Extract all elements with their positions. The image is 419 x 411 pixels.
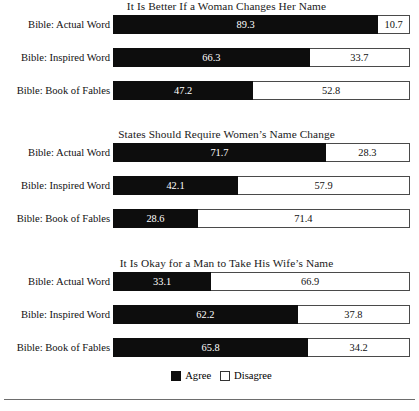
row-label: Bible: Inspired Word — [0, 48, 113, 67]
legend-label-agree: Agree — [185, 370, 211, 381]
bar-row: Bible: Inspired Word 42.1 57.9 — [0, 176, 419, 195]
bar-segment-disagree[interactable]: 66.9 — [211, 272, 410, 291]
bar-track: 89.3 10.7 — [113, 15, 410, 34]
bar-segment-agree[interactable]: 33.1 — [113, 272, 211, 291]
bar-track: 33.1 66.9 — [113, 272, 410, 291]
bar-segment-agree[interactable]: 28.6 — [113, 209, 198, 228]
bar-track: 47.2 52.8 — [113, 81, 410, 100]
bar-segment-agree[interactable]: 71.7 — [113, 143, 326, 162]
bar-segment-disagree[interactable]: 33.7 — [310, 48, 410, 67]
panel-rows: Bible: Actual Word 71.7 28.3 Bible: Insp… — [0, 143, 419, 228]
bar-segment-agree[interactable]: 62.2 — [113, 305, 298, 324]
bottom-divider — [4, 399, 415, 400]
legend-label-disagree: Disagree — [234, 370, 272, 381]
chart-panel-3: It Is Okay for a Man to Take His Wife’s … — [0, 257, 419, 357]
bar-segment-agree[interactable]: 66.3 — [113, 48, 310, 67]
stacked-bar-figure: It Is Better If a Woman Changes Her Name… — [0, 0, 419, 411]
row-label: Bible: Actual Word — [0, 272, 113, 291]
bar-row: Bible: Actual Word 71.7 28.3 — [0, 143, 419, 162]
legend-swatch-agree-icon — [171, 371, 181, 381]
bar-track: 65.8 34.2 — [113, 338, 410, 357]
panel-rows: Bible: Actual Word 89.3 10.7 Bible: Insp… — [0, 15, 419, 100]
bar-segment-agree[interactable]: 47.2 — [113, 81, 253, 100]
legend-item-agree[interactable]: Agree — [171, 370, 211, 381]
bar-row: Bible: Actual Word 89.3 10.7 — [0, 15, 419, 34]
legend-swatch-disagree-icon — [220, 371, 230, 381]
panel-title: States Should Require Women’s Name Chang… — [0, 128, 419, 141]
row-label: Bible: Book of Fables — [0, 81, 113, 100]
chart-panel-2: States Should Require Women’s Name Chang… — [0, 128, 419, 228]
bar-track: 42.1 57.9 — [113, 176, 410, 195]
bar-segment-disagree[interactable]: 37.8 — [298, 305, 410, 324]
bar-segment-agree[interactable]: 65.8 — [113, 338, 308, 357]
panel-rows: Bible: Actual Word 33.1 66.9 Bible: Insp… — [0, 272, 419, 357]
panel-title: It Is Better If a Woman Changes Her Name — [0, 0, 419, 13]
bar-segment-disagree[interactable]: 10.7 — [378, 15, 410, 34]
bar-track: 62.2 37.8 — [113, 305, 410, 324]
row-label: Bible: Actual Word — [0, 143, 113, 162]
chart-legend: Agree Disagree — [0, 370, 419, 381]
row-label: Bible: Inspired Word — [0, 176, 113, 195]
panel-title: It Is Okay for a Man to Take His Wife’s … — [0, 257, 419, 270]
bar-row: Bible: Book of Fables 47.2 52.8 — [0, 81, 419, 100]
bar-track: 66.3 33.7 — [113, 48, 410, 67]
bar-segment-disagree[interactable]: 52.8 — [253, 81, 410, 100]
bar-segment-disagree[interactable]: 57.9 — [238, 176, 410, 195]
row-label: Bible: Actual Word — [0, 15, 113, 34]
bar-track: 71.7 28.3 — [113, 143, 410, 162]
row-label: Bible: Inspired Word — [0, 305, 113, 324]
bar-row: Bible: Actual Word 33.1 66.9 — [0, 272, 419, 291]
bar-segment-disagree[interactable]: 71.4 — [198, 209, 410, 228]
bar-track: 28.6 71.4 — [113, 209, 410, 228]
bar-row: Bible: Book of Fables 28.6 71.4 — [0, 209, 419, 228]
chart-panel-1: It Is Better If a Woman Changes Her Name… — [0, 0, 419, 100]
bar-segment-disagree[interactable]: 34.2 — [308, 338, 410, 357]
row-label: Bible: Book of Fables — [0, 338, 113, 357]
bar-row: Bible: Book of Fables 65.8 34.2 — [0, 338, 419, 357]
legend-item-disagree[interactable]: Disagree — [220, 370, 272, 381]
bar-row: Bible: Inspired Word 62.2 37.8 — [0, 305, 419, 324]
bar-segment-agree[interactable]: 89.3 — [113, 15, 378, 34]
row-label: Bible: Book of Fables — [0, 209, 113, 228]
bar-segment-agree[interactable]: 42.1 — [113, 176, 238, 195]
bar-row: Bible: Inspired Word 66.3 33.7 — [0, 48, 419, 67]
bar-segment-disagree[interactable]: 28.3 — [326, 143, 410, 162]
